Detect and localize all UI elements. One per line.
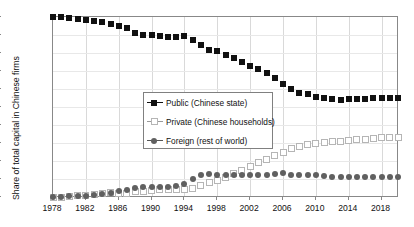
data-point-marker — [99, 19, 105, 25]
data-point-marker — [75, 193, 81, 199]
y-axis-tick-mark — [0, 70, 1, 71]
data-point-marker — [305, 91, 311, 97]
y-axis-tick-mark — [0, 106, 1, 107]
data-point-marker — [66, 15, 72, 21]
data-point-marker — [304, 141, 311, 148]
data-point-marker — [58, 14, 64, 20]
data-point-marker — [223, 172, 229, 178]
data-point-marker — [198, 172, 204, 178]
x-axis-tick-mark — [381, 197, 382, 200]
x-axis-tick-label: 1994 — [168, 204, 198, 213]
data-point-marker — [338, 97, 344, 103]
legend-entry: Public (Chinese state) — [144, 93, 274, 112]
data-point-marker — [346, 174, 352, 180]
data-point-marker — [296, 143, 303, 150]
y-axis-tick-mark — [0, 124, 1, 125]
x-axis-tick-mark — [118, 197, 119, 200]
data-point-marker — [206, 179, 213, 186]
x-axis-tick-label: 2010 — [300, 204, 330, 213]
data-point-marker — [353, 136, 360, 143]
data-point-marker — [239, 172, 245, 178]
data-point-marker — [75, 16, 81, 22]
data-point-marker — [386, 134, 393, 141]
data-point-marker — [157, 33, 163, 39]
data-point-marker — [91, 18, 97, 24]
data-point-marker — [198, 42, 204, 48]
gridline-horizontal — [53, 161, 397, 162]
data-point-marker — [157, 184, 163, 190]
data-point-marker — [321, 95, 327, 101]
x-axis-tick-label: 1986 — [103, 204, 133, 213]
data-point-marker — [255, 172, 261, 178]
data-point-marker — [197, 182, 204, 189]
data-point-marker — [395, 174, 401, 180]
data-point-marker — [280, 170, 286, 176]
data-point-marker — [223, 52, 229, 58]
data-point-marker — [132, 30, 138, 36]
data-point-marker — [305, 172, 311, 178]
data-point-marker — [255, 66, 261, 72]
y-axis-tick-mark — [0, 178, 1, 179]
data-point-marker — [50, 14, 56, 20]
data-point-marker — [247, 63, 253, 69]
x-axis-tick-label: 1982 — [70, 204, 100, 213]
y-axis-tick-mark — [0, 196, 1, 197]
data-point-marker — [313, 172, 319, 178]
data-point-marker — [395, 134, 402, 141]
data-point-marker — [345, 137, 352, 144]
data-point-marker — [140, 32, 146, 38]
data-point-marker — [296, 90, 302, 96]
data-point-marker — [124, 187, 130, 193]
y-axis-tick-mark — [0, 52, 1, 53]
y-axis-tick-mark — [0, 142, 1, 143]
data-point-marker — [83, 193, 89, 199]
data-point-marker — [190, 37, 196, 43]
data-point-marker — [312, 140, 319, 147]
x-axis-tick-mark — [282, 197, 283, 200]
x-axis-tick-mark — [348, 197, 349, 200]
data-point-marker — [288, 86, 294, 92]
data-point-marker — [387, 95, 393, 101]
data-point-marker — [346, 96, 352, 102]
data-point-marker — [329, 138, 336, 145]
data-point-marker — [395, 95, 401, 101]
data-point-marker — [321, 139, 328, 146]
data-point-marker — [247, 163, 254, 170]
data-point-marker — [313, 94, 319, 100]
x-axis-tick-label: 1978 — [37, 204, 67, 213]
legend-label: Public (Chinese state) — [166, 98, 247, 108]
x-axis-tick-mark — [183, 197, 184, 200]
data-point-marker — [370, 95, 376, 101]
legend-label: Foreign (rest of world) — [166, 136, 247, 146]
data-point-marker — [379, 174, 385, 180]
data-point-marker — [149, 32, 155, 38]
data-point-marker — [214, 177, 221, 184]
data-point-marker — [354, 96, 360, 102]
y-axis-tick-mark — [0, 34, 1, 35]
gridline-horizontal — [53, 35, 397, 36]
data-point-marker — [329, 96, 335, 102]
chart-legend: Public (Chinese state)Private (Chinese h… — [143, 92, 273, 149]
data-point-marker — [255, 159, 262, 166]
data-point-marker — [181, 33, 187, 39]
data-point-marker — [108, 190, 114, 196]
data-point-marker — [263, 156, 270, 163]
data-point-marker — [296, 172, 302, 178]
data-point-marker — [264, 172, 270, 178]
data-point-marker — [83, 17, 89, 23]
legend-label: Private (Chinese households) — [166, 117, 275, 127]
data-point-marker — [264, 70, 270, 76]
data-point-marker — [288, 145, 295, 152]
data-point-marker — [271, 152, 278, 159]
data-point-marker — [288, 172, 294, 178]
data-point-marker — [362, 96, 368, 102]
legend-entry: Private (Chinese households) — [144, 112, 274, 131]
data-point-marker — [50, 194, 56, 200]
data-point-marker — [189, 185, 196, 192]
x-axis-tick-label: 2014 — [333, 204, 363, 213]
data-point-marker — [214, 48, 220, 54]
data-point-marker — [379, 95, 385, 101]
data-point-marker — [190, 176, 196, 182]
data-point-marker — [231, 55, 237, 61]
data-point-marker — [231, 172, 237, 178]
